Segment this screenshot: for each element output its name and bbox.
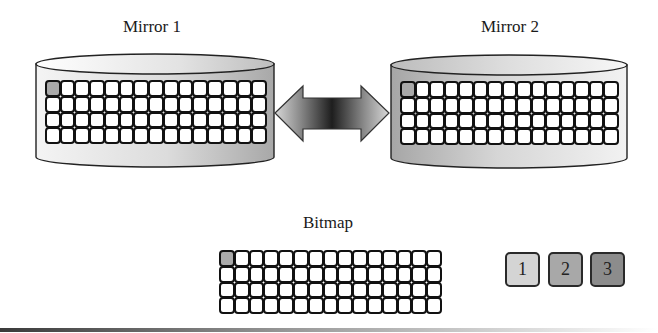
grid-cell xyxy=(589,81,605,98)
grid-cell xyxy=(278,266,294,283)
grid-cell xyxy=(502,128,518,145)
grid-cell xyxy=(531,81,547,98)
grid-cell xyxy=(222,96,238,113)
grid-cell xyxy=(89,112,105,129)
grid-cell xyxy=(531,113,547,130)
grid-cell xyxy=(263,282,279,299)
grid-cell xyxy=(237,112,253,129)
grid-cell xyxy=(415,97,431,114)
legend-box-2: 2 xyxy=(548,252,583,287)
grid-cell xyxy=(574,81,590,98)
grid-cell xyxy=(323,297,339,314)
grid-cell xyxy=(104,127,120,144)
mirror2-label: Mirror 2 xyxy=(458,17,562,37)
sync-arrow-icon xyxy=(275,86,389,141)
grid-cell xyxy=(293,297,309,314)
grid-cell xyxy=(574,128,590,145)
grid-cell xyxy=(426,250,442,267)
grid-cell xyxy=(382,297,398,314)
grid-cell xyxy=(382,250,398,267)
grid-cell xyxy=(545,113,561,130)
grid-cell xyxy=(545,97,561,114)
grid-cell xyxy=(531,97,547,114)
grid-cell xyxy=(400,97,416,114)
grid-cell xyxy=(397,282,413,299)
grid-cell xyxy=(251,80,267,97)
mirror2-block-grid xyxy=(401,82,619,145)
bottom-divider xyxy=(0,328,658,332)
grid-cell xyxy=(104,80,120,97)
grid-cell xyxy=(473,113,489,130)
grid-cell xyxy=(458,97,474,114)
grid-cell xyxy=(207,80,223,97)
grid-cell xyxy=(426,282,442,299)
grid-cell-shaded xyxy=(400,81,416,98)
mirror1-block-grid xyxy=(46,81,267,144)
grid-cell xyxy=(411,282,427,299)
grid-cell xyxy=(426,266,442,283)
grid-cell xyxy=(352,266,368,283)
grid-cell xyxy=(207,127,223,144)
grid-cell xyxy=(207,112,223,129)
grid-cell xyxy=(415,81,431,98)
grid-cell xyxy=(603,128,619,145)
grid-cell-shaded xyxy=(219,250,235,267)
grid-cell xyxy=(178,112,194,129)
grid-cell xyxy=(89,96,105,113)
grid-cell xyxy=(352,297,368,314)
grid-cell xyxy=(207,96,223,113)
grid-cell xyxy=(323,250,339,267)
grid-cell xyxy=(104,112,120,129)
grid-cell xyxy=(278,250,294,267)
grid-cell xyxy=(249,266,265,283)
grid-cell xyxy=(531,128,547,145)
grid-cell xyxy=(397,250,413,267)
grid-cell xyxy=(163,96,179,113)
grid-cell xyxy=(249,297,265,314)
grid-cell xyxy=(516,128,532,145)
grid-cell xyxy=(545,81,561,98)
grid-cell xyxy=(249,282,265,299)
grid-cell xyxy=(178,127,194,144)
grid-cell xyxy=(133,127,149,144)
grid-cell xyxy=(293,282,309,299)
grid-cell xyxy=(222,127,238,144)
grid-cell xyxy=(263,297,279,314)
grid-cell xyxy=(308,282,324,299)
grid-cell xyxy=(516,113,532,130)
grid-cell xyxy=(148,127,164,144)
grid-cell xyxy=(323,282,339,299)
legend-box-1: 1 xyxy=(505,252,540,287)
grid-cell xyxy=(133,112,149,129)
grid-cell xyxy=(119,80,135,97)
grid-cell xyxy=(237,127,253,144)
grid-cell xyxy=(74,80,90,97)
grid-cell xyxy=(337,250,353,267)
grid-cell xyxy=(308,297,324,314)
grid-cell xyxy=(444,113,460,130)
grid-cell xyxy=(367,282,383,299)
grid-cell xyxy=(516,97,532,114)
grid-cell xyxy=(400,128,416,145)
grid-cell xyxy=(400,113,416,130)
grid-cell xyxy=(60,80,76,97)
grid-cell xyxy=(251,112,267,129)
grid-cell xyxy=(560,97,576,114)
grid-cell xyxy=(45,127,61,144)
grid-cell xyxy=(119,127,135,144)
grid-cell xyxy=(293,250,309,267)
grid-cell xyxy=(119,112,135,129)
grid-cell xyxy=(278,282,294,299)
grid-cell xyxy=(60,96,76,113)
grid-cell xyxy=(502,97,518,114)
grid-cell xyxy=(337,282,353,299)
grid-cell xyxy=(560,81,576,98)
grid-cell xyxy=(263,250,279,267)
grid-cell xyxy=(545,128,561,145)
grid-cell xyxy=(429,97,445,114)
grid-cell xyxy=(251,127,267,144)
grid-cell xyxy=(337,297,353,314)
grid-cell xyxy=(397,266,413,283)
grid-cell xyxy=(367,250,383,267)
grid-cell xyxy=(178,96,194,113)
